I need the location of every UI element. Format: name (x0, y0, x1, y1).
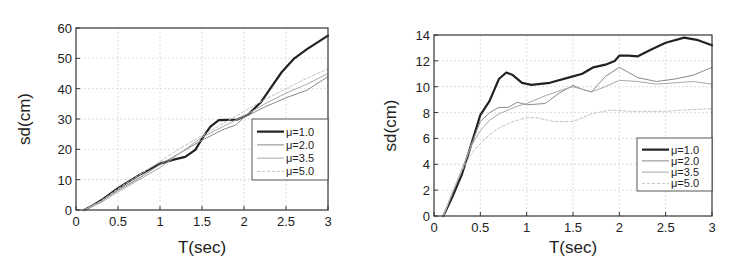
y-tick-label: 6 (423, 131, 430, 146)
legend-label-4: μ=5.0 (671, 177, 699, 189)
y-axis-label: sd(cm) (381, 100, 400, 152)
y-tick-label: 0 (423, 209, 430, 224)
x-tick-label: 1.5 (193, 214, 211, 229)
y-tick-label: 60 (58, 21, 72, 36)
y-tick-label: 40 (58, 82, 72, 97)
x-tick-label: 1 (156, 214, 163, 229)
legend-label-2: μ=2.0 (671, 155, 699, 167)
axis-ticks: 00.511.522.5302468101214 (416, 28, 716, 235)
x-tick-label: 2 (240, 214, 247, 229)
chart-left-canvas: 00.511.522.530102030405060T(sec)sd(cm)μ=… (0, 0, 366, 278)
legend: μ=1.0μ=2.0μ=3.5μ=5.0 (637, 138, 712, 191)
legend-label-2: μ=2.0 (286, 139, 314, 151)
x-tick-label: 2 (616, 220, 623, 235)
x-tick-label: 0 (430, 220, 437, 235)
y-tick-label: 8 (423, 106, 430, 121)
x-tick-label: 3 (324, 214, 331, 229)
x-axis-label: T(sec) (549, 238, 597, 257)
y-tick-label: 30 (58, 112, 72, 127)
y-tick-label: 12 (416, 54, 430, 69)
y-tick-label: 10 (58, 173, 72, 188)
x-tick-label: 2.5 (277, 214, 295, 229)
x-tick-label: 1.5 (564, 220, 582, 235)
x-tick-label: 2.5 (657, 220, 675, 235)
legend-label-1: μ=1.0 (671, 144, 699, 156)
x-tick-label: 0.5 (109, 214, 127, 229)
y-tick-label: 50 (58, 51, 72, 66)
x-tick-label: 0.5 (471, 220, 489, 235)
y-axis-label: sd(cm) (15, 93, 34, 145)
legend-label-3: μ=3.5 (286, 152, 314, 164)
x-axis-label: T(sec) (178, 238, 226, 257)
x-tick-label: 3 (708, 220, 715, 235)
legend-label-4: μ=5.0 (286, 165, 314, 177)
y-tick-label: 2 (423, 183, 430, 198)
legend-label-3: μ=3.5 (671, 166, 699, 178)
legend-label-1: μ=1.0 (286, 126, 314, 138)
y-tick-label: 20 (58, 142, 72, 157)
chart-right-sd-vs-period: 00.511.522.5302468101214T(sec)sd(cm)μ=1.… (366, 0, 733, 278)
y-tick-label: 14 (416, 28, 430, 43)
y-tick-label: 0 (65, 203, 72, 218)
legend: μ=1.0μ=2.0μ=3.5μ=5.0 (252, 119, 328, 180)
chart-right-canvas: 00.511.522.5302468101214T(sec)sd(cm)μ=1.… (366, 0, 733, 278)
y-tick-label: 10 (416, 80, 430, 95)
chart-left-sd-vs-period: 00.511.522.530102030405060T(sec)sd(cm)μ=… (0, 0, 366, 278)
y-tick-label: 4 (423, 157, 430, 172)
x-tick-label: 0 (72, 214, 79, 229)
x-tick-label: 1 (523, 220, 530, 235)
